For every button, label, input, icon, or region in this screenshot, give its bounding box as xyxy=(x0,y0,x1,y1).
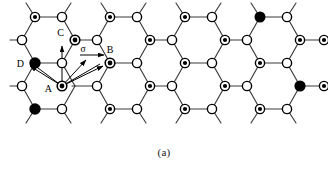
node-dotted xyxy=(255,104,264,113)
node-site-b xyxy=(105,58,115,68)
node-open xyxy=(207,12,216,21)
node-open xyxy=(57,58,66,67)
node-open xyxy=(207,104,216,113)
node-open xyxy=(92,35,101,44)
label-vector-sigma: σ xyxy=(80,44,85,54)
node-dotted xyxy=(30,12,39,21)
node-open xyxy=(132,104,141,113)
node-dotted xyxy=(180,12,189,21)
node-site-a xyxy=(57,81,67,91)
node-site-c xyxy=(70,35,80,45)
node-open xyxy=(17,81,26,90)
node-open xyxy=(167,81,176,90)
node-open xyxy=(57,104,66,113)
node-open xyxy=(132,12,141,21)
node-dotted xyxy=(220,81,229,90)
label-site-c: C xyxy=(57,27,64,38)
node-open xyxy=(282,12,291,21)
node-dotted xyxy=(145,35,154,44)
vectors-from-site-a xyxy=(30,46,104,86)
node-open xyxy=(207,58,216,67)
node-open xyxy=(242,35,251,44)
node-open xyxy=(167,35,176,44)
node-dotted xyxy=(295,35,304,44)
node-open xyxy=(132,58,141,67)
node-dotted xyxy=(255,58,264,67)
node-site-d xyxy=(30,58,40,68)
node-open xyxy=(242,81,251,90)
label-site-a: A xyxy=(45,83,53,94)
label-site-d: D xyxy=(17,58,24,69)
node-open xyxy=(282,58,291,67)
node-dotted xyxy=(105,104,114,113)
node-solid xyxy=(255,12,265,22)
label-site-b: B xyxy=(107,44,114,55)
node-dotted xyxy=(180,104,189,113)
node-open xyxy=(57,12,66,21)
node-dotted xyxy=(105,12,114,21)
node-dotted xyxy=(180,58,189,67)
figure-caption: (a) xyxy=(0,146,328,158)
node-open xyxy=(282,104,291,113)
node-solid xyxy=(295,81,305,91)
node-dotted xyxy=(145,81,154,90)
node-open xyxy=(17,35,26,44)
node-open xyxy=(92,81,101,90)
node-dotted xyxy=(220,35,229,44)
figure-container: C B D A σ (a) xyxy=(0,0,328,181)
node-solid xyxy=(30,104,40,114)
node-dotted xyxy=(319,81,328,90)
node-dotted xyxy=(319,35,328,44)
